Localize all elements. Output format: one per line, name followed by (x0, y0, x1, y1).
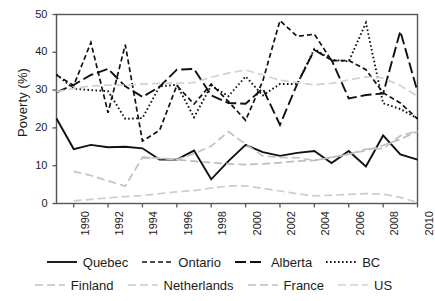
legend-item-quebec[interactable]: Quebec (47, 255, 129, 270)
legend-row: FinlandNetherlandsFranceUS (0, 274, 427, 296)
series-line-ontario (57, 21, 418, 142)
legend-item-bc[interactable]: BC (326, 255, 380, 270)
legend-swatch-quebec (47, 256, 77, 268)
series-line-finland (74, 131, 418, 186)
legend-item-finland[interactable]: Finland (35, 278, 114, 293)
legend-label: Finland (71, 278, 114, 293)
series-line-france (142, 131, 417, 164)
legend-label: US (374, 278, 392, 293)
series-line-netherlands (74, 186, 418, 203)
legend-label: Ontario (178, 255, 221, 270)
chart-legend: QuebecOntarioAlbertaBC FinlandNetherland… (0, 250, 427, 301)
legend-item-us[interactable]: US (338, 278, 392, 293)
legend-swatch-ontario (142, 256, 172, 268)
series-line-quebec (57, 118, 418, 179)
legend-row: QuebecOntarioAlbertaBC (0, 251, 427, 273)
legend-item-netherlands[interactable]: Netherlands (128, 278, 234, 293)
series-line-us (57, 70, 418, 96)
legend-label: Quebec (83, 255, 129, 270)
legend-swatch-finland (35, 279, 65, 291)
legend-label: BC (362, 255, 380, 270)
legend-label: Netherlands (164, 278, 234, 293)
legend-item-ontario[interactable]: Ontario (142, 255, 221, 270)
legend-swatch-netherlands (128, 279, 158, 291)
legend-item-france[interactable]: France (248, 278, 324, 293)
plot-frame (57, 15, 418, 204)
legend-item-alberta[interactable]: Alberta (235, 255, 312, 270)
legend-swatch-bc (326, 256, 356, 268)
legend-swatch-france (248, 279, 278, 291)
legend-swatch-alberta (235, 256, 265, 268)
legend-label: Alberta (271, 255, 312, 270)
legend-label: France (284, 278, 324, 293)
legend-swatch-us (338, 279, 368, 291)
